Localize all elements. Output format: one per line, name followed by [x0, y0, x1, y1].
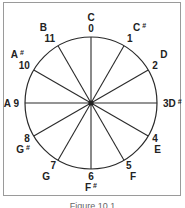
- spoke-line: [91, 103, 148, 136]
- pitch-number-5: 5: [126, 160, 132, 171]
- note-name-6: F#: [85, 182, 97, 193]
- pitch-number-4: 4: [152, 133, 158, 144]
- pitch-number-8: 8: [24, 133, 30, 144]
- center-dot: [88, 100, 93, 105]
- note-name-4: E: [154, 144, 161, 155]
- note-name-5: F: [130, 171, 136, 182]
- spoke-line: [34, 70, 91, 103]
- pitch-number-6: 6: [88, 171, 94, 182]
- pitch-number-1: 1: [127, 33, 133, 44]
- note-name-0: C: [87, 12, 94, 23]
- note-name-1: C#: [133, 22, 146, 33]
- figure-caption: Figure 10.1: [0, 201, 185, 208]
- note-name-2: D: [160, 49, 167, 60]
- note-label-3: 3D#: [163, 98, 182, 109]
- note-name-8: G#: [16, 144, 30, 155]
- pitch-number-2: 2: [152, 60, 158, 71]
- note-name-11: B: [40, 22, 47, 33]
- note-name-7: G: [42, 171, 50, 182]
- spoke-line: [91, 103, 124, 160]
- spoke-line: [91, 70, 148, 103]
- spoke-line: [58, 103, 91, 160]
- note-label-9: A 9: [4, 98, 20, 109]
- spoke-line: [91, 46, 124, 103]
- note-name-10: A#: [11, 49, 24, 60]
- spoke-line: [34, 103, 91, 136]
- pitch-number-0: 0: [88, 23, 94, 34]
- pitch-number-11: 11: [44, 33, 55, 44]
- pitch-number-10: 10: [19, 60, 31, 71]
- pitch-number-7: 7: [50, 160, 56, 171]
- spoke-line: [58, 46, 91, 103]
- pitch-class-circle: 0C1C#2D3D#4E5F6F#7G8G#A 910A#11B: [0, 0, 185, 208]
